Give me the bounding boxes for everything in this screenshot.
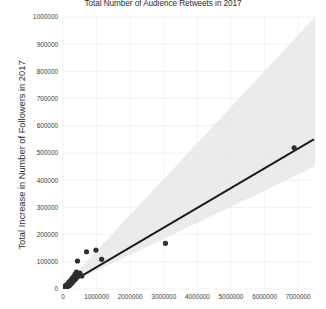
x-tick-label: 0 <box>61 293 65 300</box>
confidence-band-area <box>63 17 315 287</box>
y-tick-label: 100000 <box>37 258 59 265</box>
y-tick-label: 900000 <box>37 41 59 48</box>
y-tick-label: 0 <box>54 285 58 292</box>
x-tick-label: 1000000 <box>84 293 109 300</box>
y-tick-label: 1000000 <box>33 13 58 20</box>
chart-figure: Total Number of Audience Retweets in 201… <box>0 0 326 309</box>
scatter-point <box>292 145 297 150</box>
scatter-point <box>99 257 104 262</box>
confidence-band <box>63 17 315 287</box>
scatter-point <box>163 241 168 246</box>
scatter-point <box>84 249 89 254</box>
x-tick-label: 4000000 <box>185 293 210 300</box>
x-tick-label: 7000000 <box>286 293 311 300</box>
y-tick-label: 400000 <box>37 177 59 184</box>
y-axis-ticks: 0100000200000300000400000500000600000700… <box>33 13 58 292</box>
y-tick-label: 800000 <box>37 68 59 75</box>
scatter-point <box>75 258 80 263</box>
x-tick-label: 5000000 <box>219 293 244 300</box>
plot-area: 0100000200000300000400000500000600000700… <box>0 0 326 309</box>
y-tick-label: 500000 <box>37 149 59 156</box>
y-tick-label: 300000 <box>37 204 59 211</box>
x-axis-ticks: 0100000020000003000000400000050000006000… <box>61 293 311 300</box>
y-tick-label: 700000 <box>37 95 59 102</box>
x-tick-label: 6000000 <box>252 293 277 300</box>
scatter-point <box>93 248 98 253</box>
y-tick-label: 600000 <box>37 122 59 129</box>
x-tick-label: 2000000 <box>118 293 143 300</box>
y-tick-label: 200000 <box>37 231 59 238</box>
scatter-point <box>79 273 84 278</box>
x-tick-label: 3000000 <box>151 293 176 300</box>
